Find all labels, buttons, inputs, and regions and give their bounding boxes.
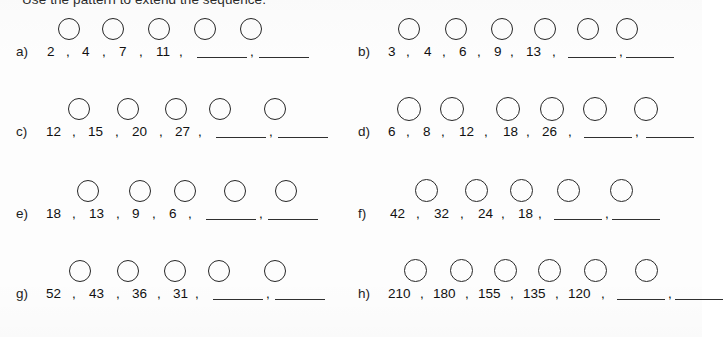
separator-comma: ,: [568, 124, 572, 139]
jump-circle[interactable]: [404, 259, 427, 282]
jump-circle[interactable]: [465, 179, 488, 202]
sequence-term: 31: [173, 286, 188, 301]
answer-blank[interactable]: [617, 286, 665, 300]
jump-circle[interactable]: [398, 18, 420, 40]
jump-circle[interactable]: [164, 260, 186, 282]
jump-circle[interactable]: [450, 259, 473, 282]
jump-circle[interactable]: [534, 18, 556, 40]
sequence-term: 36: [132, 286, 147, 301]
jump-circle[interactable]: [174, 180, 196, 202]
answer-blank[interactable]: [275, 286, 325, 300]
answer-blank[interactable]: [646, 124, 694, 138]
jump-circle[interactable]: [577, 18, 599, 40]
jump-circle[interactable]: [58, 18, 80, 40]
jump-circle[interactable]: [634, 97, 658, 121]
separator-comma: ,: [188, 206, 192, 221]
sequence-term: 3: [388, 44, 396, 59]
separator-comma: ,: [406, 124, 410, 139]
jump-circle[interactable]: [148, 18, 170, 40]
sequence-term: 155: [478, 286, 501, 301]
separator-comma: ,: [72, 206, 76, 221]
jump-circle[interactable]: [117, 260, 139, 282]
sequence-term: 26: [542, 124, 557, 139]
answer-blank[interactable]: [216, 124, 266, 138]
answer-blank[interactable]: [259, 44, 309, 58]
separator-comma: ,: [66, 44, 70, 59]
answer-blank[interactable]: [568, 44, 616, 58]
problem-g: g)52433631,,,,,: [16, 258, 352, 320]
jump-circle[interactable]: [616, 18, 638, 40]
sequence-term: 43: [89, 286, 104, 301]
jump-circle[interactable]: [208, 260, 230, 282]
sequence-term: 4: [82, 44, 90, 59]
jump-circle[interactable]: [194, 18, 216, 40]
jump-circle[interactable]: [635, 259, 658, 282]
jump-circle[interactable]: [240, 18, 262, 40]
problem-c: c)12152027,,,,,: [16, 96, 352, 158]
jump-circle[interactable]: [510, 179, 533, 202]
jump-circle[interactable]: [557, 179, 580, 202]
jump-circle[interactable]: [445, 18, 467, 40]
answer-blank[interactable]: [268, 206, 318, 220]
jump-circle[interactable]: [209, 98, 231, 120]
sequence-term: 42: [390, 206, 405, 221]
separator-comma: ,: [619, 44, 623, 59]
sequence-term: 20: [132, 124, 147, 139]
separator-comma: ,: [195, 286, 199, 301]
problem-b: b)346913,,,,,,: [358, 16, 698, 78]
jump-circle[interactable]: [69, 260, 91, 282]
answer-blank[interactable]: [675, 286, 723, 300]
jump-circle-row: [16, 96, 352, 126]
jump-circle[interactable]: [491, 18, 513, 40]
jump-circle[interactable]: [540, 97, 564, 121]
jump-circle[interactable]: [102, 18, 124, 40]
jump-circle[interactable]: [165, 98, 187, 120]
jump-circle[interactable]: [583, 97, 607, 121]
jump-circle[interactable]: [264, 260, 286, 282]
problem-f: f)42322418,,,,,: [358, 178, 698, 240]
separator-comma: ,: [102, 44, 106, 59]
problem-h: h)210180155135120,,,,,,: [358, 258, 698, 320]
separator-comma: ,: [635, 124, 639, 139]
jump-circle[interactable]: [264, 98, 286, 120]
problem-d: d)68121826,,,,,,: [358, 96, 698, 158]
jump-circle[interactable]: [77, 180, 99, 202]
answer-blank[interactable]: [626, 44, 674, 58]
jump-circle[interactable]: [584, 259, 607, 282]
jump-circle[interactable]: [496, 97, 520, 121]
separator-comma: ,: [416, 206, 420, 221]
answer-blank[interactable]: [197, 44, 247, 58]
jump-circle[interactable]: [275, 180, 297, 202]
answer-blank[interactable]: [206, 206, 256, 220]
separator-comma: ,: [510, 286, 514, 301]
jump-circle[interactable]: [538, 259, 561, 282]
jump-circle-row: [16, 16, 352, 46]
separator-comma: ,: [605, 206, 609, 221]
answer-blank[interactable]: [554, 206, 602, 220]
separator-comma: ,: [157, 286, 161, 301]
separator-comma: ,: [198, 124, 202, 139]
answer-blank[interactable]: [612, 206, 660, 220]
sequence-term: 13: [89, 206, 104, 221]
separator-comma: ,: [601, 286, 605, 301]
jump-circle[interactable]: [494, 259, 517, 282]
jump-circle[interactable]: [440, 97, 464, 121]
jump-circle[interactable]: [610, 179, 633, 202]
sequence-term: 18: [518, 206, 533, 221]
jump-circle[interactable]: [224, 180, 246, 202]
separator-comma: ,: [115, 124, 119, 139]
separator-comma: ,: [259, 206, 263, 221]
separator-comma: ,: [72, 124, 76, 139]
answer-blank[interactable]: [213, 286, 263, 300]
jump-circle[interactable]: [397, 97, 421, 121]
jump-circle[interactable]: [117, 98, 139, 120]
jump-circle[interactable]: [129, 180, 151, 202]
answer-blank[interactable]: [278, 124, 328, 138]
jump-circle[interactable]: [415, 179, 438, 202]
jump-circle[interactable]: [68, 98, 90, 120]
sequence-term: 6: [388, 124, 396, 139]
answer-blank[interactable]: [584, 124, 632, 138]
sequence-term: 135: [523, 286, 546, 301]
separator-comma: ,: [179, 44, 183, 59]
